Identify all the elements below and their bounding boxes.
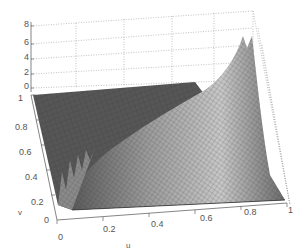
v-tick-label: 0 <box>44 216 49 225</box>
u-tick-label: 0 <box>58 233 63 242</box>
v-tick-label: 0.4 <box>25 173 38 182</box>
z-tick-label: 6 <box>24 38 29 47</box>
z-tick-label: 4 <box>24 53 29 62</box>
v-tick-label: 1 <box>18 94 23 103</box>
z-tick-label: 2 <box>24 68 29 77</box>
u-axis-label: u <box>126 241 130 250</box>
u-tick-label: 0.8 <box>244 208 257 217</box>
v-tick-label: 0.8 <box>15 123 28 132</box>
z-tick-label: 0 <box>24 82 29 91</box>
u-tick-label: 0.2 <box>103 225 116 234</box>
u-tick-label: 0.6 <box>200 214 213 223</box>
z-tick-label: 8 <box>24 20 29 29</box>
v-tick-label: 0.6 <box>19 148 32 157</box>
u-tick-label: 1 <box>288 206 293 215</box>
v-tick-label: 0.2 <box>31 198 44 207</box>
u-tick-label: 0.4 <box>151 220 164 229</box>
v-axis-label: v <box>18 208 22 217</box>
